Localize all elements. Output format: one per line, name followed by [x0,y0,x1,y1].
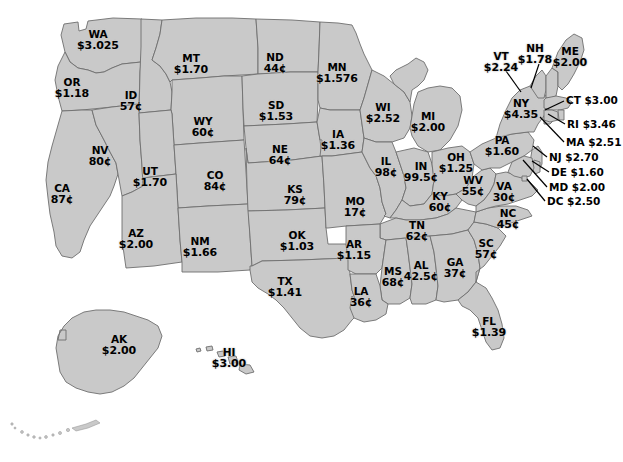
state-value-NE: 64¢ [269,155,292,166]
state-label-LA: LA36¢ [350,286,373,308]
state-value-VA: 30¢ [493,192,516,203]
state-value-LA: 36¢ [350,297,373,308]
state-label-OH: OH$1.25 [439,152,473,174]
state-value-ID: 57¢ [120,101,143,112]
callout-value-RI: $3.46 [583,118,616,130]
state-label-CA: CA87¢ [51,183,74,205]
state-label-WY: WY60¢ [192,116,215,138]
state-label-NH: NH$1.78 [518,43,552,65]
state-label-WV: WV55¢ [462,175,485,197]
state-value-WI: $2.52 [366,113,400,124]
callout-abbr-CT: CT [566,94,581,106]
state-label-AK: AK$2.00 [102,334,136,356]
state-value-WY: 60¢ [192,127,215,138]
state-label-OK: OK$1.03 [280,230,314,252]
state-label-NC: NC45¢ [497,208,520,230]
state-label-MN: MN$1.576 [316,62,358,84]
state-value-NV: 80¢ [89,156,112,167]
state-value-OH: $1.25 [439,163,473,174]
callout-abbr-DC: DC [547,195,563,207]
callout-abbr-MA: MA [566,136,585,148]
state-label-KY: KY60¢ [429,191,452,213]
state-value-OK: $1.03 [280,241,314,252]
state-value-CO: 84¢ [204,181,227,192]
state-label-NV: NV80¢ [89,145,112,167]
state-value-MS: 68¢ [382,277,405,288]
state-RI [558,110,564,120]
callout-value-DE: $1.60 [571,166,604,178]
state-label-GA: GA37¢ [444,257,467,279]
state-label-VA: VA30¢ [493,181,516,203]
callout-label-CT: CT $3.00 [566,95,618,106]
state-label-ID: ID57¢ [120,90,143,112]
state-label-WI: WI$2.52 [366,102,400,124]
state-value-WV: 55¢ [462,186,485,197]
state-value-OR: $1.18 [55,88,89,99]
state-label-MO: MO17¢ [344,196,367,218]
state-value-AR: $1.15 [337,250,371,261]
state-label-NE: NE64¢ [269,144,292,166]
state-value-ND: 44¢ [264,63,287,74]
state-TX [250,258,360,338]
state-value-WA: $3.025 [77,40,119,51]
state-value-SD: $1.53 [259,111,293,122]
state-value-AZ: $2.00 [119,239,153,250]
callout-label-DE: DE $1.60 [551,167,604,178]
state-DC [522,176,527,181]
state-value-MT: $1.70 [174,64,208,75]
state-value-AL: 42.5¢ [404,271,438,282]
state-label-MI: MI$2.00 [411,111,445,133]
state-value-NH: $1.78 [518,54,552,65]
state-label-AL: AL42.5¢ [404,260,438,282]
state-label-MT: MT$1.70 [174,53,208,75]
state-label-AZ: AZ$2.00 [119,228,153,250]
state-value-MO: 17¢ [344,207,367,218]
callout-label-DC: DC $2.50 [547,196,600,207]
callout-abbr-RI: RI [567,118,579,130]
callout-value-DC: $2.50 [567,195,600,207]
state-value-TN: 62¢ [406,231,429,242]
callout-value-MD: $2.00 [572,181,605,193]
state-label-IL: IL98¢ [375,156,398,178]
state-value-MI: $2.00 [411,122,445,133]
callout-abbr-MD: MD [549,181,568,193]
state-label-HI: HI$3.00 [212,347,246,369]
state-value-VT: $2.24 [484,62,518,73]
state-value-AK: $2.00 [102,345,136,356]
state-value-FL: $1.39 [472,327,506,338]
state-value-NM: $1.66 [183,247,217,258]
state-value-CA: 87¢ [51,194,74,205]
callout-value-NJ: $2.70 [565,151,598,163]
state-label-TX: TX$1.41 [268,276,302,298]
state-NH [546,68,558,98]
us-map-figure: WA$3.025OR$1.18ID57¢MT$1.70WY60¢ND44¢SD$… [0,0,623,462]
callout-label-RI: RI $3.46 [567,119,616,130]
state-label-MS: MS68¢ [382,266,405,288]
state-label-ND: ND44¢ [264,52,287,74]
state-value-NY: $4.35 [504,109,538,120]
callout-abbr-DE: DE [551,166,567,178]
state-label-OR: OR$1.18 [55,77,89,99]
state-label-FL: FL$1.39 [472,316,506,338]
state-label-IA: IA$1.36 [321,129,355,151]
state-label-NY: NY$4.35 [504,98,538,120]
state-value-TX: $1.41 [268,287,302,298]
callout-label-MA: MA $2.51 [566,137,621,148]
state-value-IL: 98¢ [375,167,398,178]
figure-caption [6,452,606,461]
state-value-IN: 99.5¢ [404,172,438,183]
leader-vt [506,71,521,92]
state-label-CO: CO84¢ [204,170,227,192]
state-value-ME: $2.00 [553,57,587,68]
state-value-HI: $3.00 [212,358,246,369]
state-value-KS: 79¢ [284,195,307,206]
callout-abbr-NJ: NJ [549,151,562,163]
state-value-UT: $1.70 [133,177,167,188]
state-value-MN: $1.576 [316,73,358,84]
state-label-PA: PA$1.60 [485,135,519,157]
state-value-NC: 45¢ [497,219,520,230]
state-label-TN: TN62¢ [406,220,429,242]
state-value-SC: 57¢ [475,249,498,260]
state-value-KY: 60¢ [429,202,452,213]
state-label-NM: NM$1.66 [183,236,217,258]
